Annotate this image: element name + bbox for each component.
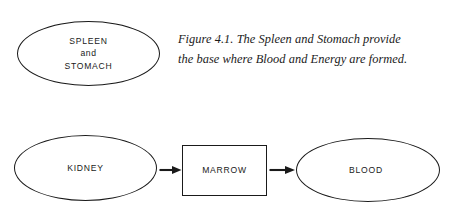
node-marrow-label: MARROW (202, 164, 247, 177)
arrow-marrow-to-blood (268, 165, 297, 175)
figure-caption: Figure 4.1. The Spleen and Stomach provi… (178, 30, 440, 69)
node-spleen-stomach-line-1: SPLEEN (69, 35, 107, 48)
figure-diagram: SPLEEN and STOMACH Figure 4.1. The Splee… (0, 0, 452, 216)
figure-caption-line-2: the base where Blood and Energy are form… (178, 50, 440, 70)
arrow-kidney-to-marrow (159, 165, 183, 175)
node-blood: BLOOD (296, 138, 440, 202)
node-spleen-stomach-line-3: STOMACH (64, 60, 112, 73)
node-spleen-stomach: SPLEEN and STOMACH (17, 21, 160, 86)
node-blood-label: BLOOD (349, 164, 383, 177)
node-kidney: KIDNEY (14, 135, 157, 201)
node-marrow: MARROW (182, 145, 267, 196)
figure-caption-line-1: Figure 4.1. The Spleen and Stomach provi… (178, 30, 440, 50)
node-spleen-stomach-line-2: and (81, 47, 97, 60)
node-kidney-label: KIDNEY (67, 162, 104, 175)
